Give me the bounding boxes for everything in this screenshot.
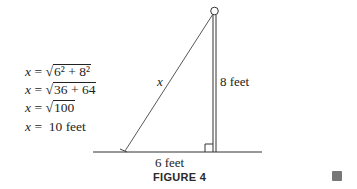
equation-result: 10 feet <box>49 119 86 134</box>
radicand: 36 + 64 <box>53 82 96 97</box>
height-label: 8 feet <box>220 74 249 90</box>
equation-lhs: x <box>25 82 31 97</box>
page-thumbnail-icon[interactable] <box>332 171 342 181</box>
sqrt-icon: √ <box>45 100 53 116</box>
right-angle-marker <box>205 144 213 152</box>
radicand: 6² + 8² <box>53 64 91 79</box>
base-label: 6 feet <box>155 155 184 171</box>
equation-3: x = √100 <box>25 100 75 116</box>
sqrt-icon: √ <box>45 64 53 80</box>
equation-lhs: x <box>25 100 31 115</box>
radicand: 100 <box>53 100 75 115</box>
sqrt-icon: √ <box>45 82 53 98</box>
equation-4: x = 10 feet <box>25 119 86 135</box>
equation-lhs: x <box>25 64 31 79</box>
equation-2: x = √36 + 64 <box>25 82 96 98</box>
pole-top-circle <box>211 7 219 15</box>
equation-lhs: x <box>25 119 31 134</box>
hypotenuse-wire <box>125 14 213 151</box>
equation-1: x = √6² + 8² <box>25 64 91 80</box>
hypotenuse-label: x <box>157 74 163 90</box>
figure-caption: FIGURE 4 <box>153 171 206 183</box>
